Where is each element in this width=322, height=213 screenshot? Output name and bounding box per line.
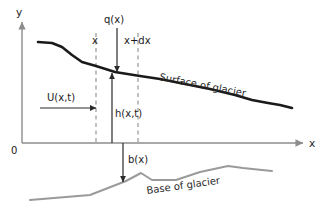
- origin-label: 0: [11, 145, 17, 156]
- glacier-diagram: y x 0 q(x) x x+dx U(x,t) h(x,t) b(x) Sur…: [0, 0, 322, 213]
- velocity-label: U(x,t): [47, 92, 75, 103]
- y-axis-label: y: [16, 6, 22, 18]
- surface-of-glacier-label: Surface of glacier: [159, 71, 248, 99]
- thickness-label: h(x,t): [115, 108, 142, 119]
- q-label: q(x): [104, 14, 124, 25]
- x-plus-dx-label: x+dx: [124, 35, 151, 46]
- x-axis-label: x: [309, 137, 315, 149]
- bed-elevation-label: b(x): [128, 154, 148, 165]
- x-station-label: x: [92, 35, 98, 46]
